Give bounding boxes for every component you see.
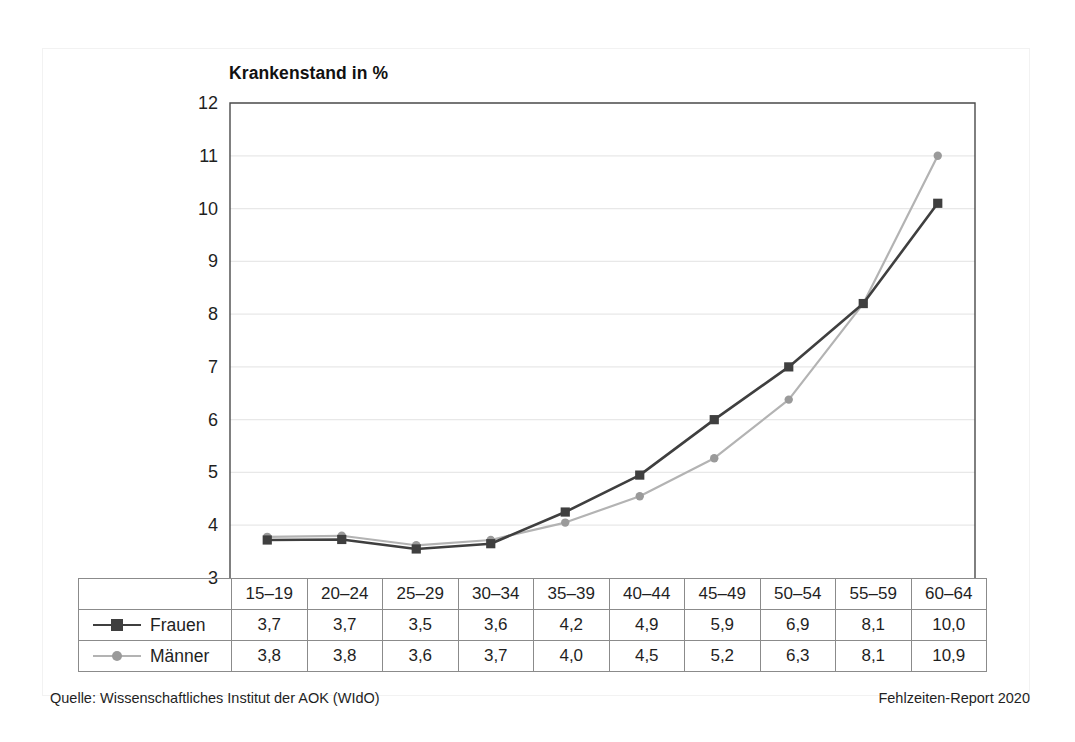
table-cell: 4,2 [534, 610, 610, 641]
table-cell: 3,8 [232, 641, 308, 672]
table-cell: 3,6 [383, 641, 459, 672]
table-cell: 4,9 [609, 610, 685, 641]
data-point-marker [412, 544, 421, 553]
table-cell: 3,8 [307, 641, 383, 672]
table-column-header: 40–44 [609, 579, 685, 610]
data-point-marker [785, 395, 793, 403]
plot-frame [230, 103, 975, 578]
data-point-marker [933, 199, 942, 208]
table-column-header: 25–29 [383, 579, 459, 610]
table-column-header: 35–39 [534, 579, 610, 610]
series-line-frauen [267, 203, 938, 549]
table-header-row: 15–1920–2425–2930–3435–3940–4445–4950–54… [79, 579, 987, 610]
legend-entry-männer: Männer [79, 641, 232, 672]
data-table: 15–1920–2425–2930–3435–3940–4445–4950–54… [78, 578, 987, 672]
table-cell: 5,2 [685, 641, 761, 672]
table-cell: 4,5 [609, 641, 685, 672]
table-column-header: 45–49 [685, 579, 761, 610]
data-point-marker [934, 152, 942, 160]
y-axis-tick-label: 8 [178, 305, 218, 323]
data-table-wrap: 15–1920–2425–2930–3435–3940–4445–4950–54… [78, 578, 975, 672]
table-cell: 4,0 [534, 641, 610, 672]
figure-root: Krankenstand in % 3456789101112 15–1920–… [0, 0, 1075, 742]
data-point-marker [710, 415, 719, 424]
legend-circle-marker-icon [93, 649, 141, 663]
y-axis-tick-label: 5 [178, 463, 218, 481]
table-cell: 3,6 [458, 610, 534, 641]
table-column-header: 60–64 [911, 579, 987, 610]
table-cell: 3,7 [307, 610, 383, 641]
table-column-header: 55–59 [836, 579, 912, 610]
table-column-header: 30–34 [458, 579, 534, 610]
legend-entry-frauen: Frauen [79, 610, 232, 641]
table-cell: 8,1 [836, 641, 912, 672]
table-column-header: 15–19 [232, 579, 308, 610]
data-point-marker [561, 507, 570, 516]
legend-label: Frauen [150, 615, 205, 636]
table-cell: 6,3 [760, 641, 836, 672]
data-point-marker [784, 362, 793, 371]
figure-footer: Quelle: Wissenschaftliches Institut der … [50, 690, 1030, 706]
data-point-marker [263, 535, 272, 544]
data-point-marker [636, 492, 644, 500]
table-cell: 6,9 [760, 610, 836, 641]
y-axis-tick-label: 10 [178, 200, 218, 218]
table-cell: 10,9 [911, 641, 987, 672]
table-column-header: 20–24 [307, 579, 383, 610]
y-axis-tick-label: 7 [178, 358, 218, 376]
y-axis-tick-label: 6 [178, 411, 218, 429]
table-cell: 8,1 [836, 610, 912, 641]
source-note: Quelle: Wissenschaftliches Institut der … [50, 690, 380, 706]
series-line-männer [267, 156, 938, 546]
data-point-marker [859, 299, 868, 308]
legend-label: Männer [150, 646, 209, 667]
report-note: Fehlzeiten-Report 2020 [878, 690, 1030, 706]
table-row: Männer3,83,83,63,74,04,55,26,38,110,9 [79, 641, 987, 672]
legend-square-marker-icon [93, 618, 141, 632]
data-point-marker [635, 470, 644, 479]
y-axis-tick-label: 12 [178, 94, 218, 112]
y-axis-tick-label: 4 [178, 516, 218, 534]
table-cell: 3,7 [458, 641, 534, 672]
table-row: Frauen3,73,73,53,64,24,95,96,98,110,0 [79, 610, 987, 641]
table-cell: 3,5 [383, 610, 459, 641]
data-point-marker [486, 539, 495, 548]
y-axis-tick-label: 11 [178, 147, 218, 165]
data-point-marker [710, 454, 718, 462]
data-point-marker [337, 535, 346, 544]
y-axis-tick-label: 9 [178, 252, 218, 270]
table-cell: 5,9 [685, 610, 761, 641]
table-column-header: 50–54 [760, 579, 836, 610]
data-point-marker [561, 518, 569, 526]
table-cell: 3,7 [232, 610, 308, 641]
table-cell: 10,0 [911, 610, 987, 641]
table-corner-cell [79, 579, 232, 610]
